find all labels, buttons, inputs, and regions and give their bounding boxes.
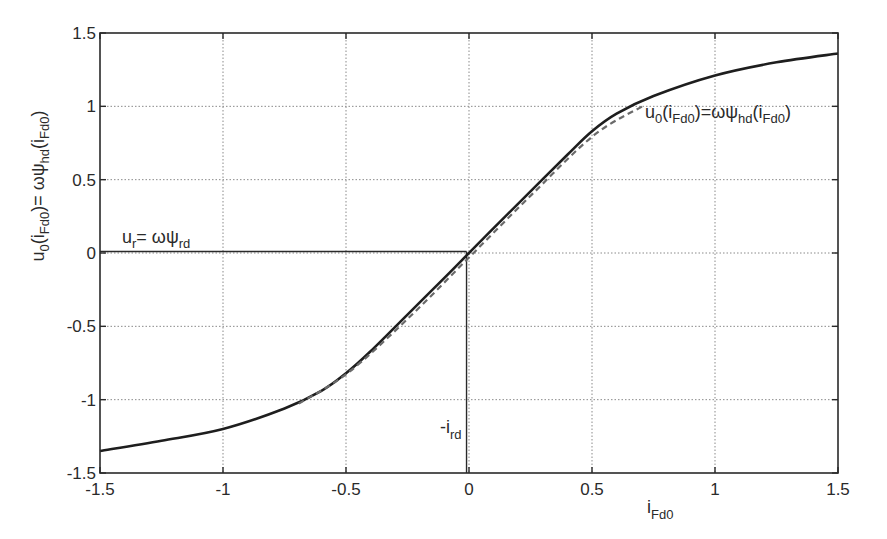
y-tick-label: -1	[81, 391, 96, 410]
y-tick-labels: -1.5-1-0.500.511.5	[67, 24, 96, 483]
x-tick-label: 1.5	[826, 480, 850, 499]
y-tick-label: 1.5	[72, 24, 96, 43]
ur-annotation: ur= ωψrd	[122, 227, 190, 251]
reference-lines	[100, 252, 467, 473]
chart: -1.5-1-0.500.511.5 -1.5-1-0.500.511.5 u0…	[0, 0, 887, 539]
x-tick-label: 0	[464, 480, 473, 499]
x-tick-label: -0.5	[331, 480, 360, 499]
y-tick-label: 0	[87, 244, 96, 263]
x-axis-label: iFd0	[647, 497, 673, 522]
y-tick-label: -0.5	[67, 317, 96, 336]
x-tick-label: 0.5	[580, 480, 604, 499]
x-tick-labels: -1.5-1-0.500.511.5	[85, 480, 849, 499]
y-tick-label: 0.5	[72, 171, 96, 190]
ird-annotation: -ird	[440, 417, 462, 442]
x-tick-label: 1	[710, 480, 719, 499]
curve-annotation: u0(iFd0)=ωψhd(iFd0)	[645, 102, 791, 126]
y-tick-label: 1	[87, 97, 96, 116]
x-tick-label: -1	[215, 480, 230, 499]
y-axis-label: u0(iFd0)= ωψhd(iFd0)	[28, 111, 52, 262]
y-tick-label: -1.5	[67, 464, 96, 483]
